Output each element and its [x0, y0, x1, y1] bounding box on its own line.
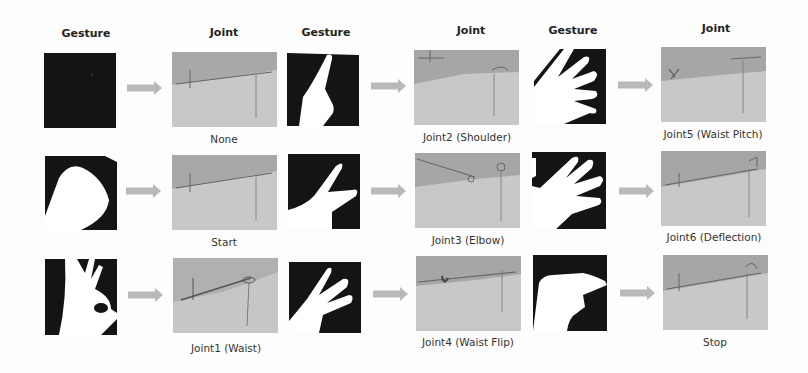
joint-image-joint3	[415, 153, 520, 228]
joint-label-none: None	[210, 133, 237, 145]
arrow-icon	[127, 81, 162, 95]
arrow-icon	[128, 288, 163, 302]
joint-label-start: Start	[211, 236, 237, 248]
robot-arm-scene-icon	[172, 52, 277, 127]
robot-arm-scene-icon	[414, 50, 519, 125]
arrow-icon	[618, 78, 653, 92]
gesture-image-joint2	[287, 51, 359, 126]
joint-image-joint5	[661, 47, 766, 122]
gesture-image-start	[45, 156, 117, 230]
four-fingers-gesture-icon	[534, 49, 606, 124]
header-gesture-1: Gesture	[61, 27, 110, 40]
fist-gesture-icon	[45, 156, 117, 230]
joint-label-joint4: Joint4 (Waist Flip)	[422, 336, 514, 348]
robot-arm-scene-icon	[663, 255, 768, 330]
three-fingers-gesture-icon	[289, 259, 361, 333]
joint-image-joint4	[416, 256, 521, 331]
joint-image-stop	[663, 255, 768, 330]
ok-gesture-icon	[45, 259, 117, 335]
header-joint-3: Joint	[702, 22, 731, 35]
header-gesture-3: Gesture	[548, 24, 597, 37]
gesture-image-joint4	[289, 259, 361, 333]
joint-label-joint3: Joint3 (Elbow)	[432, 234, 505, 246]
joint-label-joint5: Joint5 (Waist Pitch)	[664, 128, 763, 140]
header-gesture-2: Gesture	[301, 26, 350, 39]
two-fingers-gesture-icon	[288, 154, 360, 229]
header-joint-1: Joint	[210, 26, 239, 39]
gesture-image-stop	[533, 255, 607, 331]
arrow-icon	[371, 184, 406, 198]
gesture-image-joint5	[534, 49, 606, 124]
joint-image-joint2	[414, 50, 519, 125]
robot-arm-scene-icon	[173, 258, 278, 333]
joint-label-joint2: Joint2 (Shoulder)	[423, 131, 511, 143]
joint-label-joint6: Joint6 (Deflection)	[667, 231, 762, 243]
arrow-icon	[373, 287, 408, 301]
joint-image-start	[172, 155, 277, 230]
joint-image-none	[172, 52, 277, 127]
joint-image-joint6	[661, 151, 766, 226]
arrow-icon	[619, 184, 654, 198]
robot-arm-scene-icon	[416, 256, 521, 331]
gesture-image-joint6	[532, 152, 606, 229]
robot-arm-scene-icon	[661, 47, 766, 122]
gesture-image-none	[44, 53, 116, 128]
arrow-icon	[620, 286, 655, 300]
joint-label-stop: Stop	[703, 336, 727, 348]
flat-hand-gesture-icon	[533, 255, 607, 331]
empty-gesture-icon	[44, 53, 116, 128]
arrow-icon	[371, 79, 406, 93]
five-fingers-gesture-icon	[532, 152, 606, 229]
arrow-icon	[126, 184, 161, 198]
joint-label-joint1: Joint1 (Waist)	[191, 342, 261, 354]
gesture-image-joint3	[288, 154, 360, 229]
one-finger-gesture-icon	[287, 51, 359, 126]
robot-arm-scene-icon	[415, 153, 520, 228]
header-joint-2: Joint	[457, 24, 486, 37]
gesture-image-joint1	[45, 259, 117, 335]
joint-image-joint1	[173, 258, 278, 333]
robot-arm-scene-icon	[172, 155, 277, 230]
robot-arm-scene-icon	[661, 151, 766, 226]
